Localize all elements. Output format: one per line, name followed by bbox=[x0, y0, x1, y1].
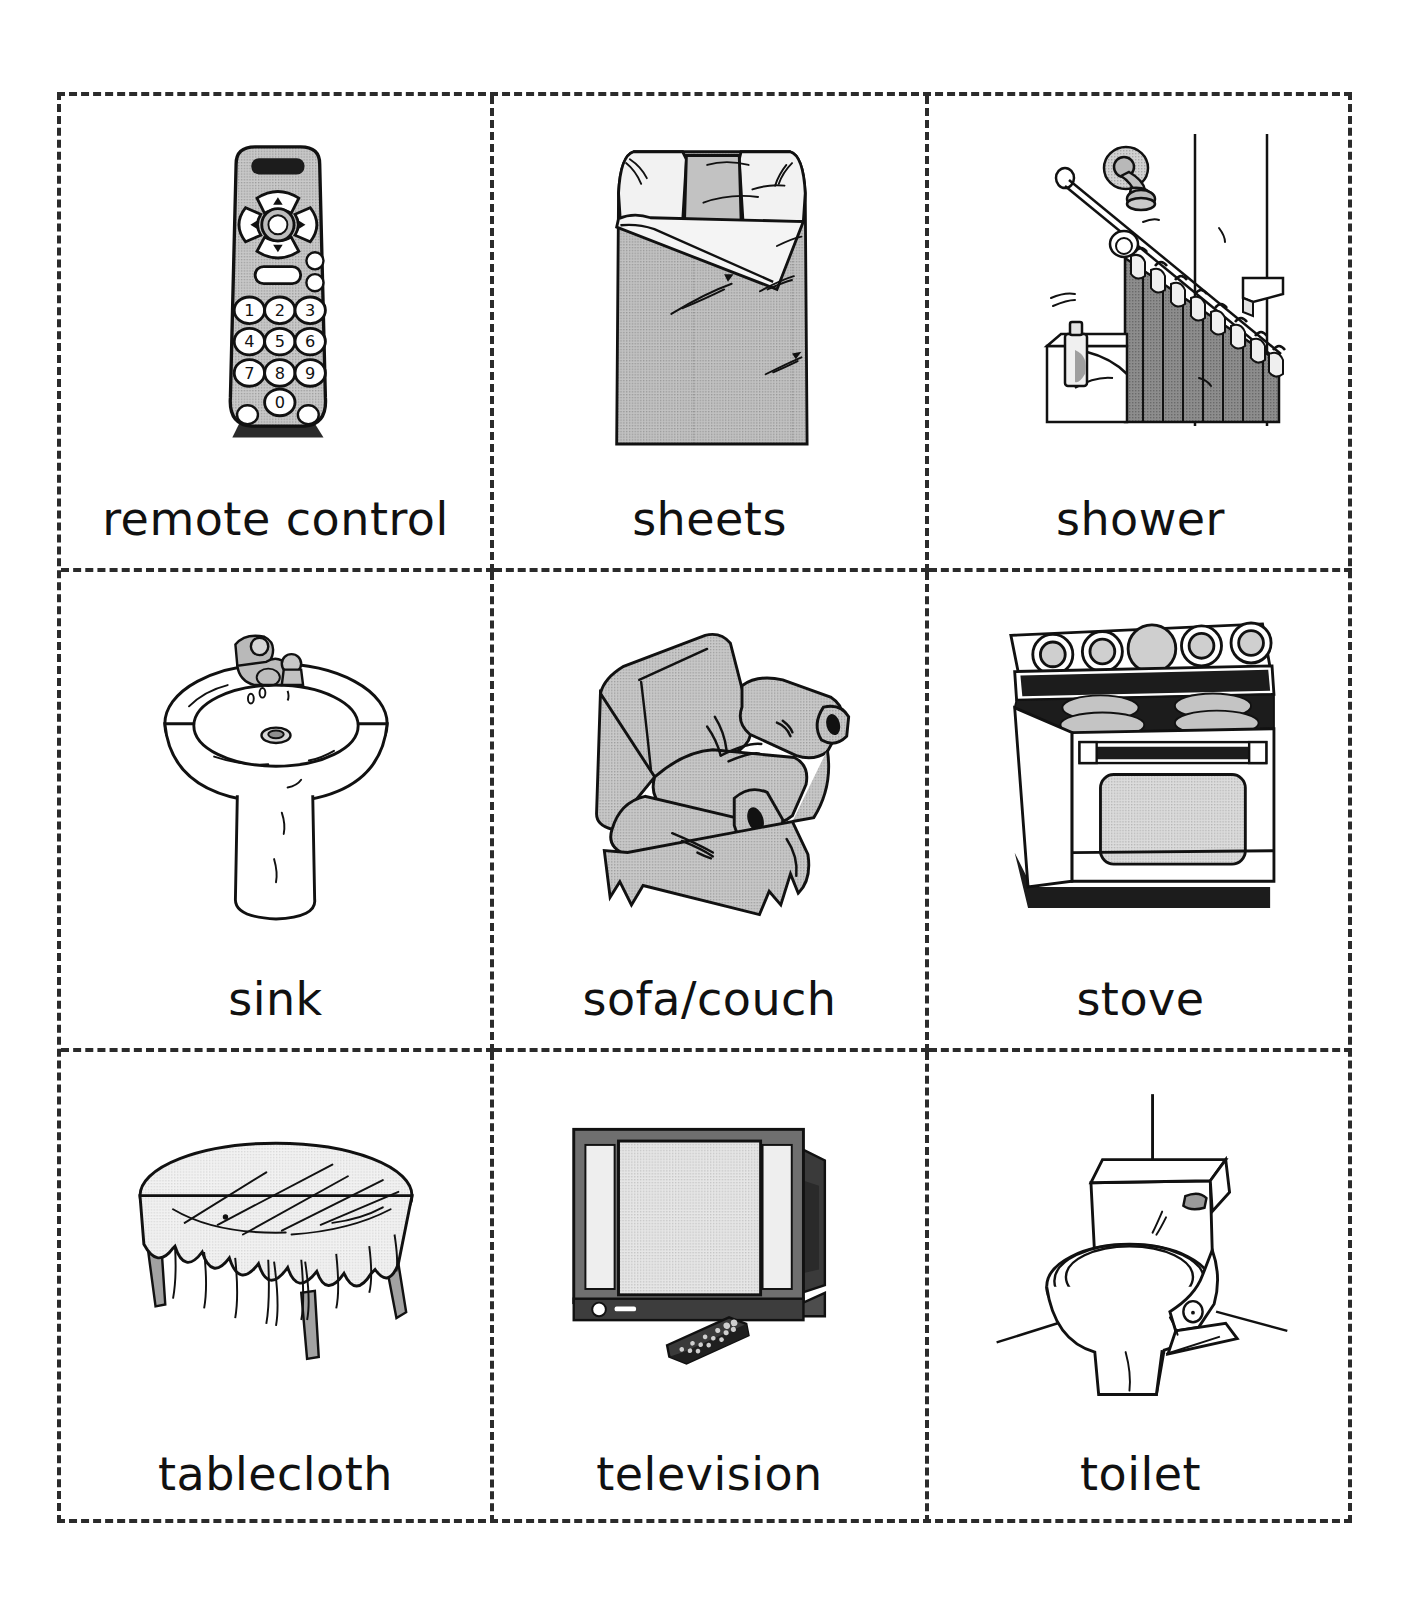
card-shower[interactable]: shower bbox=[929, 96, 1352, 572]
card-label: toilet bbox=[1080, 1451, 1201, 1523]
stove-illustration bbox=[929, 572, 1352, 976]
card-toilet[interactable]: toilet bbox=[929, 1052, 1352, 1523]
tablecloth-illustration bbox=[61, 1052, 490, 1451]
flashcard-grid: 1 2 3 4 5 6 7 8 9 0 remote control bbox=[57, 92, 1352, 1523]
svg-text:8: 8 bbox=[274, 364, 284, 383]
card-label: sink bbox=[228, 976, 323, 1048]
shower-illustration bbox=[929, 96, 1352, 496]
card-label: shower bbox=[1056, 496, 1225, 568]
card-label: television bbox=[596, 1451, 822, 1523]
flashcard-sheet: 1 2 3 4 5 6 7 8 9 0 remote control bbox=[0, 0, 1410, 1603]
svg-text:4: 4 bbox=[244, 332, 254, 351]
card-label: sofa/couch bbox=[582, 976, 836, 1048]
card-tablecloth[interactable]: tablecloth bbox=[61, 1052, 494, 1523]
svg-text:1: 1 bbox=[244, 301, 254, 320]
remote-control-illustration: 1 2 3 4 5 6 7 8 9 0 bbox=[61, 96, 490, 496]
toilet-illustration bbox=[929, 1052, 1352, 1451]
svg-text:7: 7 bbox=[244, 364, 254, 383]
card-label: tablecloth bbox=[158, 1451, 393, 1523]
sink-illustration bbox=[61, 572, 490, 976]
television-illustration bbox=[494, 1052, 925, 1451]
card-label: remote control bbox=[102, 496, 449, 568]
card-television[interactable]: television bbox=[494, 1052, 929, 1523]
svg-text:5: 5 bbox=[274, 332, 284, 351]
card-stove[interactable]: stove bbox=[929, 572, 1352, 1052]
svg-text:3: 3 bbox=[305, 301, 315, 320]
card-sofa-couch[interactable]: sofa/couch bbox=[494, 572, 929, 1052]
card-sink[interactable]: sink bbox=[61, 572, 494, 1052]
sheets-illustration bbox=[494, 96, 925, 496]
svg-text:6: 6 bbox=[305, 332, 315, 351]
card-sheets[interactable]: sheets bbox=[494, 96, 929, 572]
card-label: sheets bbox=[632, 496, 787, 568]
card-label: stove bbox=[1076, 976, 1204, 1048]
sofa-couch-illustration bbox=[494, 572, 925, 976]
card-remote-control[interactable]: 1 2 3 4 5 6 7 8 9 0 remote control bbox=[61, 96, 494, 572]
svg-text:9: 9 bbox=[305, 364, 315, 383]
svg-text:0: 0 bbox=[274, 393, 284, 412]
svg-text:2: 2 bbox=[274, 301, 284, 320]
